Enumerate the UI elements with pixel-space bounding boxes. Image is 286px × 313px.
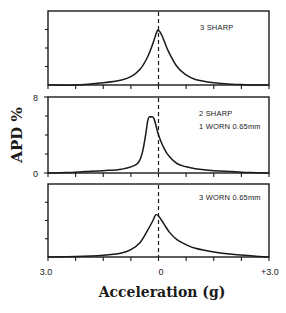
apd-figure: 3 SHARP 2 SHARP 1 WORN 0.65mm 3 WORN 0.6… [0, 0, 286, 313]
panel3-annotation: 3 WORN 0.65mm [199, 193, 261, 202]
panel-1 [45, 11, 269, 89]
y-tick-label-bottom: 0 [33, 169, 38, 179]
panel2-annotation-line2: 1 WORN 0.65mm [199, 122, 261, 131]
y-axis-title: APD % [8, 107, 26, 163]
x-axis-title: Acceleration (g) [98, 284, 226, 300]
x-tick-label-center: 0 [158, 267, 163, 277]
y-tick-label-top: 8 [33, 93, 38, 103]
x-tick-label-left: 3.0 [40, 267, 53, 277]
panel-2 [44, 97, 269, 177]
panel2-annotation-line1: 2 SHARP [199, 109, 233, 118]
x-tick-label-right: +3.0 [261, 267, 279, 277]
panel1-annotation: 3 SHARP [200, 23, 234, 32]
panels-group [44, 11, 269, 261]
